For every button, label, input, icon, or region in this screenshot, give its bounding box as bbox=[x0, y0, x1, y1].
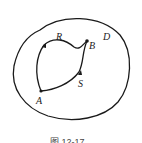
label-d: D bbox=[102, 31, 111, 42]
diagram-canvas: A B R S D 图 12-17 bbox=[0, 0, 142, 143]
label-b: B bbox=[89, 40, 95, 51]
region-d-boundary bbox=[13, 19, 129, 120]
point-a-dot bbox=[39, 89, 42, 92]
label-a: A bbox=[35, 95, 43, 106]
label-r: R bbox=[55, 31, 62, 42]
label-s: S bbox=[78, 78, 83, 89]
figure-caption: 图 12-17 bbox=[50, 137, 85, 143]
